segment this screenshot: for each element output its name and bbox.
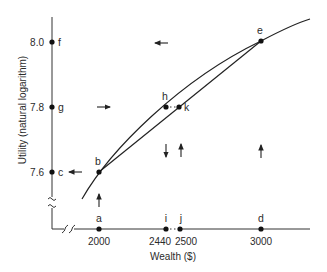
label-k: k <box>184 101 190 113</box>
label-f: f <box>58 36 61 48</box>
y-axis-title: Utility (natural logarithm) <box>17 56 28 164</box>
x-tick-2000: 2000 <box>88 236 111 247</box>
y-tick-8.0: 8.0 <box>30 37 44 48</box>
point-k <box>176 104 181 109</box>
label-c: c <box>58 166 63 178</box>
y-tick-7.8: 7.8 <box>30 102 44 113</box>
label-a: a <box>96 212 102 224</box>
point-d <box>258 226 263 231</box>
utility-curve <box>82 19 310 199</box>
x-axis-title: Wealth ($) <box>150 251 196 262</box>
point-h <box>163 104 168 109</box>
label-e: e <box>257 24 263 36</box>
point-e <box>258 38 263 43</box>
point-g <box>49 104 54 109</box>
data-points <box>49 38 263 231</box>
y-tick-7.6: 7.6 <box>30 167 44 178</box>
point-a <box>96 226 101 231</box>
point-i <box>163 226 168 231</box>
y-axis <box>48 17 56 229</box>
point-c <box>49 169 54 174</box>
label-i: i <box>165 212 167 224</box>
point-j <box>177 226 182 231</box>
label-h: h <box>162 90 168 102</box>
label-d: d <box>258 212 264 224</box>
point-b <box>96 169 101 174</box>
point-f <box>49 39 54 44</box>
x-tick-2440: 2440 <box>149 236 172 247</box>
arrows <box>69 43 261 207</box>
x-tick-2500: 2500 <box>175 236 198 247</box>
x-tick-3000: 3000 <box>250 236 273 247</box>
label-b: b <box>95 155 101 167</box>
label-g: g <box>58 101 64 113</box>
utility-chart: 8.0 7.8 7.6 f g c b h k e a i j d 2000 2… <box>0 0 327 272</box>
label-j: j <box>179 212 182 224</box>
